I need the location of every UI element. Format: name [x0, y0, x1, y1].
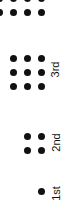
dot	[10, 9, 17, 16]
dot	[38, 0, 45, 2]
dot	[10, 69, 17, 76]
dot	[10, 83, 17, 90]
dot	[38, 133, 45, 140]
label-1st: 1st	[51, 186, 62, 201]
dot	[24, 133, 31, 140]
dot	[0, 9, 3, 16]
dot	[24, 147, 31, 154]
dot	[38, 83, 45, 90]
dot	[24, 83, 31, 90]
dot	[0, 0, 3, 2]
dot	[38, 188, 45, 195]
label-2nd: 2nd	[51, 133, 62, 151]
dot	[24, 55, 31, 62]
dot	[10, 0, 17, 2]
dot	[38, 9, 45, 16]
label-3rd: 3rd	[50, 62, 61, 78]
dot	[38, 147, 45, 154]
dot	[24, 0, 31, 2]
dot	[24, 9, 31, 16]
dot	[24, 69, 31, 76]
dot	[38, 55, 45, 62]
dot	[10, 55, 17, 62]
dot	[38, 69, 45, 76]
